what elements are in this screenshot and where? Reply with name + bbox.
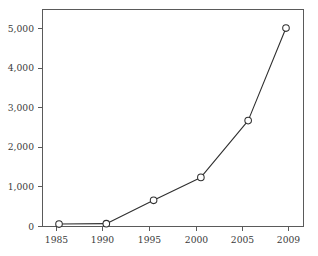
x-tick-label-2000: 2000 — [185, 234, 209, 245]
line-chart: 0 1,000 2,000 3,000 4,000 5,000 1985 199… — [0, 0, 318, 256]
data-point-2005 — [245, 117, 252, 124]
x-tick-label-1985: 1985 — [45, 234, 69, 245]
series-line — [59, 28, 286, 224]
plot-frame — [43, 10, 304, 227]
y-tick-label-3000: 3,000 — [8, 102, 34, 113]
y-tick-label-2000: 2,000 — [8, 141, 34, 152]
x-axis-ticks — [57, 227, 289, 232]
y-axis-ticks — [38, 29, 43, 227]
x-tick-label-1990: 1990 — [91, 234, 115, 245]
series-markers — [56, 25, 290, 228]
y-axis-labels: 0 1,000 2,000 3,000 4,000 5,000 — [8, 23, 34, 232]
y-tick-label-4000: 4,000 — [8, 62, 34, 73]
y-tick-label-0: 0 — [28, 221, 34, 232]
data-point-1985 — [56, 221, 63, 228]
y-tick-label-1000: 1,000 — [8, 181, 34, 192]
data-point-2000 — [198, 174, 205, 181]
data-point-1995 — [150, 197, 157, 204]
x-axis-labels: 1985 1990 1995 2000 2005 2009 — [45, 234, 301, 245]
x-tick-label-1995: 1995 — [138, 234, 162, 245]
chart-figure: 0 1,000 2,000 3,000 4,000 5,000 1985 199… — [0, 0, 318, 256]
data-point-2009 — [283, 25, 290, 32]
data-point-1990 — [103, 220, 110, 227]
x-tick-label-2009: 2009 — [277, 234, 301, 245]
y-tick-label-5000: 5,000 — [8, 23, 34, 34]
x-tick-label-2005: 2005 — [231, 234, 255, 245]
